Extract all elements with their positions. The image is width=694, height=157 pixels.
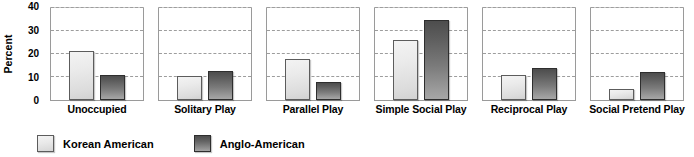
bar-korean-american-parallel-play	[285, 59, 310, 100]
legend-item-korean-american: Korean American	[37, 135, 154, 152]
bar-anglo-american-solitary-play	[208, 71, 233, 100]
bar-korean-american-solitary-play	[177, 76, 202, 100]
bar-chart-figure: Percent 010203040 UnoccupiedSolitary Pla…	[0, 0, 694, 157]
legend-swatch-light-gray-square	[37, 135, 54, 152]
category-label: Parallel Play	[259, 103, 367, 115]
bar-anglo-american-social-pretend-play	[640, 72, 665, 100]
legend-item-anglo-american: Anglo-American	[194, 135, 305, 152]
bar-korean-american-reciprocal-play	[501, 75, 526, 100]
bar-group	[267, 8, 359, 100]
category-label: Social Pretend Play	[583, 103, 691, 115]
panel-social-pretend-play: Social Pretend Play	[583, 7, 691, 117]
bar-anglo-american-reciprocal-play	[532, 68, 557, 100]
panel-row: UnoccupiedSolitary PlayParallel PlaySimp…	[43, 7, 691, 117]
bar-group	[483, 8, 575, 100]
panel-parallel-play: Parallel Play	[259, 7, 367, 117]
plot-area	[50, 7, 144, 101]
bar-anglo-american-unoccupied	[100, 75, 125, 100]
panel-unoccupied: Unoccupied	[43, 7, 151, 117]
bar-korean-american-social-pretend-play	[609, 89, 634, 101]
bar-group	[591, 8, 683, 100]
plot-area	[482, 7, 576, 101]
panel-simple-social-play: Simple Social Play	[367, 7, 475, 117]
bar-korean-american-simple-social-play	[393, 40, 418, 100]
category-label: Solitary Play	[151, 103, 259, 115]
category-label: Simple Social Play	[367, 103, 475, 115]
y-axis-tick-0: 0	[16, 96, 39, 106]
bar-korean-american-unoccupied	[69, 51, 94, 100]
plot-area	[158, 7, 252, 101]
plot-area	[590, 7, 684, 101]
y-axis-tick-10: 10	[16, 73, 39, 83]
plot-area	[374, 7, 468, 101]
chart-legend: Korean AmericanAnglo-American	[0, 130, 694, 157]
bar-group	[159, 8, 251, 100]
bar-anglo-american-parallel-play	[316, 82, 341, 100]
y-axis-tick-40: 40	[16, 2, 39, 12]
legend-label: Anglo-American	[220, 138, 305, 150]
y-axis-tick-labels: 010203040	[16, 0, 41, 107]
bar-group	[375, 8, 467, 100]
legend-swatch-dark-gray-square	[194, 135, 211, 152]
category-label: Unoccupied	[43, 103, 151, 115]
y-axis-title-text: Percent	[2, 34, 14, 73]
category-label: Reciprocal Play	[475, 103, 583, 115]
plot-area	[266, 7, 360, 101]
bar-anglo-american-simple-social-play	[424, 20, 449, 101]
panel-solitary-play: Solitary Play	[151, 7, 259, 117]
y-axis-tick-30: 30	[16, 26, 39, 36]
bar-group	[51, 8, 143, 100]
legend-label: Korean American	[63, 138, 154, 150]
panel-reciprocal-play: Reciprocal Play	[475, 7, 583, 117]
y-axis-tick-20: 20	[16, 49, 39, 59]
y-axis-title: Percent	[0, 0, 16, 107]
